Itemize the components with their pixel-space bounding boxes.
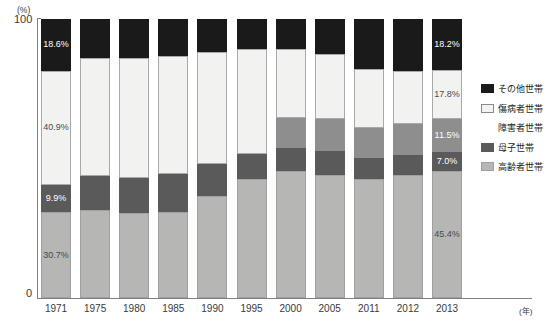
y-axis-max-tick-label: 100 (14, 13, 32, 25)
bar-segment-elderly[interactable] (197, 196, 227, 298)
bar-segment-mother-child[interactable] (276, 148, 306, 171)
bar-segment-other[interactable]: 18.6% (41, 19, 71, 71)
legend-swatch-mother-icon (481, 143, 494, 152)
x-tick-label-2005: 2005 (308, 303, 352, 314)
bar-segment-elderly[interactable] (315, 175, 345, 297)
bar-segment-sick[interactable] (237, 49, 267, 153)
legend-label: その他世帯 (498, 82, 543, 95)
legend-item-disabled[interactable]: 障害者世帯 (481, 118, 551, 138)
bar-segment-other[interactable] (119, 19, 149, 58)
bar-segment-sick[interactable]: 17.8% (432, 70, 462, 120)
bar-segment-other[interactable] (158, 19, 188, 56)
bar-segment-elderly[interactable] (354, 179, 384, 298)
bar-2011[interactable] (354, 19, 384, 298)
legend-item-sick[interactable]: 傷病者世帯 (481, 99, 551, 119)
x-tick-label-2012: 2012 (386, 303, 430, 314)
bar-segment-elderly[interactable] (119, 213, 149, 298)
bar-segment-other[interactable] (237, 19, 267, 49)
x-tick-label-2011: 2011 (347, 303, 391, 314)
bar-segment-disabled[interactable]: 11.5% (432, 119, 462, 151)
x-tick-label-1985: 1985 (151, 303, 195, 314)
segment-value-label: 11.5% (435, 131, 460, 140)
segment-value-label: 18.2% (434, 40, 460, 49)
x-tick-label-1980: 1980 (112, 303, 156, 314)
segment-value-label: 30.7% (43, 251, 69, 260)
bar-segment-other[interactable] (393, 19, 423, 71)
bar-2005[interactable] (315, 19, 345, 298)
bar-segment-disabled[interactable] (315, 119, 345, 151)
bar-segment-sick[interactable] (80, 58, 110, 175)
legend-label: 高齢者世帯 (498, 160, 543, 173)
x-axis-line (37, 298, 532, 299)
segment-value-label: 40.9% (43, 123, 69, 132)
bar-segment-elderly[interactable]: 45.4% (432, 171, 462, 298)
bar-segment-elderly[interactable] (80, 210, 110, 298)
bar-segment-other[interactable] (276, 19, 306, 49)
legend-label: 傷病者世帯 (498, 102, 543, 115)
bar-segment-mother-child[interactable] (119, 178, 149, 214)
bar-segment-other[interactable] (80, 19, 110, 58)
bar-1990[interactable] (197, 19, 227, 298)
bar-1995[interactable] (237, 19, 267, 298)
bar-segment-elderly[interactable] (393, 175, 423, 297)
bar-segment-other[interactable] (197, 19, 227, 52)
bar-segment-sick[interactable] (197, 52, 227, 164)
bar-segment-mother-child[interactable]: 9.9% (41, 185, 71, 213)
bar-segment-mother-child[interactable] (393, 155, 423, 175)
bar-segment-sick[interactable] (315, 54, 345, 119)
bar-2000[interactable] (276, 19, 306, 298)
bar-segment-mother-child[interactable] (354, 158, 384, 179)
bar-segment-other[interactable]: 18.2% (432, 19, 462, 70)
bar-1975[interactable] (80, 19, 110, 298)
bar-segment-sick[interactable]: 40.9% (41, 71, 71, 185)
bar-1971[interactable]: 18.6%40.9%9.9%30.7% (41, 19, 71, 298)
chart-figure: (%) 100 0 (年) 18.6%40.9%9.9%30.7%18.2%17… (0, 0, 551, 331)
bar-segment-disabled[interactable] (393, 124, 423, 156)
bar-segment-mother-child[interactable] (237, 154, 267, 180)
segment-value-label: 18.6% (43, 40, 69, 49)
legend-item-elder[interactable]: 高齢者世帯 (481, 157, 551, 177)
bar-1980[interactable] (119, 19, 149, 298)
y-axis-min-tick-label: 0 (26, 287, 32, 299)
bar-segment-mother-child[interactable] (315, 151, 345, 175)
bar-segment-sick[interactable] (393, 71, 423, 124)
bar-segment-mother-child[interactable]: 7.0% (432, 152, 462, 172)
bar-1985[interactable] (158, 19, 188, 298)
bar-segment-mother-child[interactable] (158, 174, 188, 211)
y-axis-line (37, 18, 38, 299)
bar-segment-disabled[interactable] (276, 118, 306, 147)
x-tick-label-2000: 2000 (269, 303, 313, 314)
legend-swatch-elder-icon (481, 162, 494, 171)
x-tick-label-1975: 1975 (73, 303, 117, 314)
bar-segment-elderly[interactable] (158, 212, 188, 298)
legend-label: 母子世帯 (498, 141, 534, 154)
legend-item-mother[interactable]: 母子世帯 (481, 138, 551, 158)
bar-segment-sick[interactable] (119, 58, 149, 178)
x-tick-label-2013: 2013 (425, 303, 469, 314)
bar-segment-elderly[interactable] (276, 171, 306, 298)
bar-segment-elderly[interactable]: 30.7% (41, 212, 71, 298)
bar-segment-other[interactable] (315, 19, 345, 54)
plot-area: 18.6%40.9%9.9%30.7%18.2%17.8%11.5%7.0%45… (41, 19, 462, 298)
segment-value-label: 7.0% (437, 157, 458, 166)
legend-swatch-sick-icon (481, 104, 494, 113)
segment-value-label: 9.9% (46, 194, 67, 203)
bar-segment-sick[interactable] (276, 49, 306, 118)
bar-2013[interactable]: 18.2%17.8%11.5%7.0%45.4% (432, 19, 462, 298)
legend-swatch-disabled-icon (481, 123, 494, 132)
bar-segment-mother-child[interactable] (80, 176, 110, 211)
bar-segment-disabled[interactable] (354, 128, 384, 159)
legend-item-other[interactable]: その他世帯 (481, 79, 551, 99)
bar-segment-other[interactable] (354, 19, 384, 69)
bar-segment-elderly[interactable] (237, 179, 267, 298)
chart-legend: その他世帯傷病者世帯障害者世帯母子世帯高齢者世帯 (481, 79, 551, 177)
x-tick-label-1995: 1995 (230, 303, 274, 314)
bar-segment-mother-child[interactable] (197, 164, 227, 196)
segment-value-label: 17.8% (434, 90, 460, 99)
bar-segment-sick[interactable] (354, 69, 384, 127)
segment-value-label: 45.4% (434, 230, 460, 239)
x-axis-unit-label: (年) (519, 305, 532, 316)
bar-segment-sick[interactable] (158, 56, 188, 174)
x-tick-label-1990: 1990 (190, 303, 234, 314)
bar-2012[interactable] (393, 19, 423, 298)
